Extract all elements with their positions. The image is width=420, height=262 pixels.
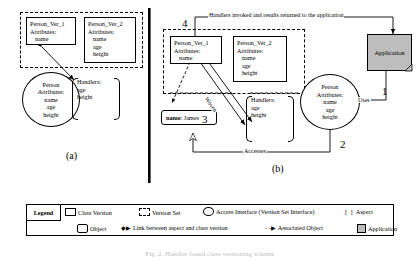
edge-label-uses: Uses — [357, 97, 371, 103]
legend-title: Legend — [34, 209, 54, 216]
step-number-2: 2 — [340, 138, 346, 150]
legend-box: Legend Class Version Version Set Access … — [26, 204, 394, 236]
panel-b-label: (b) — [272, 163, 284, 174]
legend-title-cell: Legend — [27, 205, 61, 220]
legend-row-divider — [27, 220, 61, 221]
legend-item-link: ◆▶ Link between aspect and class version — [121, 224, 228, 231]
step-number-3: 3 — [202, 113, 208, 125]
access-interface-icon — [203, 207, 214, 216]
associated-object-icon: - -▶ — [265, 224, 276, 231]
legend-item-object: Object — [77, 224, 107, 233]
legend-item-version-set: Version Set — [139, 208, 180, 216]
legend-item-access-interface: Access Interface (Version Set Interface) — [203, 207, 315, 216]
legend-item-application: Application — [357, 224, 397, 233]
legend-item-class-version: Class Version — [65, 208, 112, 216]
link-arrow-icon: ◆▶ — [121, 224, 131, 231]
step-number-1: 1 — [382, 85, 388, 97]
legend-item-aspect: [ ] Aspect — [345, 208, 373, 215]
legend-label: Application — [368, 225, 397, 232]
legend-label: Object — [90, 225, 107, 232]
application-icon — [357, 224, 366, 233]
class-version-icon — [65, 208, 76, 216]
legend-label: Version Set — [152, 209, 180, 216]
figure-caption: Fig. 2. Handler based class versioning s… — [0, 250, 420, 258]
legend-label: Access Interface (Version Set Interface) — [216, 208, 315, 215]
aspect-icon: [ ] — [345, 208, 354, 215]
object-icon — [77, 224, 88, 233]
version-set-icon — [139, 208, 150, 216]
figure-canvas: Person_Ver_1 Attributes: name Person_Ver… — [0, 0, 420, 262]
legend-label: Aspect — [356, 208, 373, 215]
legend-label: Class Version — [78, 209, 112, 216]
edge-label-handlers-returned: Handlers invoked and results returned to… — [208, 12, 344, 18]
step-number-4: 4 — [182, 17, 188, 29]
edge-label-accesses: Accesses — [243, 148, 267, 154]
legend-label: Link between aspect and class version — [133, 224, 228, 231]
legend-item-associated-object: - -▶ Associated Object — [265, 224, 323, 231]
legend-label: Associated Object — [278, 224, 323, 231]
